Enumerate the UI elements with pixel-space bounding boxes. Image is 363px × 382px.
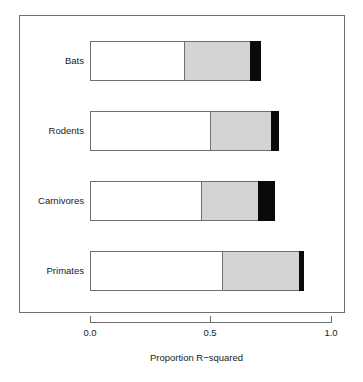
x-axis-tick xyxy=(90,316,91,322)
x-axis: 0.0 0.5 1.0 xyxy=(0,0,363,382)
x-axis-line xyxy=(90,322,332,323)
x-axis-tick xyxy=(210,316,211,322)
x-axis-tick xyxy=(331,316,332,322)
x-axis-title-text: Proportion R−squared xyxy=(150,352,243,363)
x-axis-tick-label: 0.5 xyxy=(190,327,230,338)
x-axis-tick-label: 1.0 xyxy=(311,327,351,338)
chart-figure: Bats Rodents Carnivores xyxy=(0,0,363,382)
x-axis-title: Proportion R−squared xyxy=(0,352,363,363)
x-axis-tick-label: 0.0 xyxy=(70,327,110,338)
